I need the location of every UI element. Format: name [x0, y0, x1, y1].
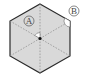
- label-a: A: [26, 16, 33, 26]
- label-b: B: [71, 6, 77, 16]
- center-point: [38, 37, 41, 40]
- hexagon-diagram: A B: [0, 0, 85, 80]
